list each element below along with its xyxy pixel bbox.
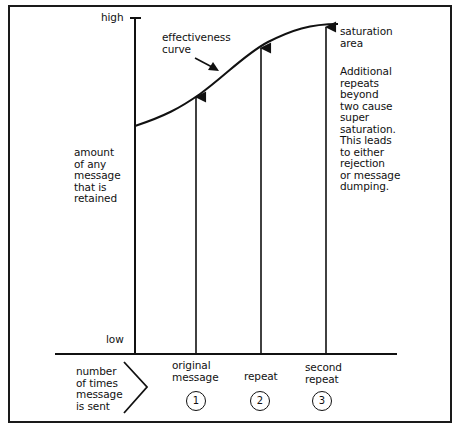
x-item-label-1: original message xyxy=(172,360,219,383)
curve-pointer-arrow xyxy=(195,58,219,71)
x-axis-title: number of times message is sent xyxy=(76,366,123,412)
number-circle-2: 2 xyxy=(250,391,270,411)
chevron-icon xyxy=(124,362,147,413)
y-axis xyxy=(130,18,141,354)
number-circle-3: 3 xyxy=(312,391,332,411)
number-circle-1: 1 xyxy=(186,391,206,411)
y-axis-title: amount of any message that is retained xyxy=(74,147,121,205)
diagram-graphics xyxy=(0,0,461,433)
y-low-label: low xyxy=(106,334,124,346)
x-item-label-2: repeat xyxy=(244,371,278,383)
saturation-label: saturation area xyxy=(340,26,393,49)
curve-label: effectiveness curve xyxy=(162,32,231,55)
y-high-label: high xyxy=(101,12,124,24)
x-item-label-3: second repeat xyxy=(305,362,342,385)
saturation-note: Additional repeats beyond two cause supe… xyxy=(340,66,400,193)
